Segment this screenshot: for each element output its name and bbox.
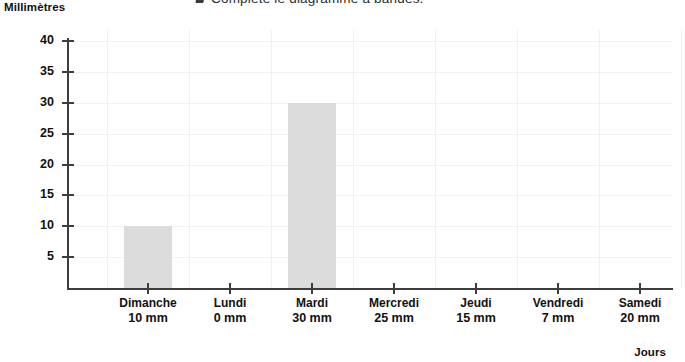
x-axis-day-name: Mardi <box>267 296 357 311</box>
y-axis-tick <box>62 40 74 42</box>
x-axis-rainfall-value: 15 mm <box>431 311 521 326</box>
x-axis-tick-label: Dimanche10 mm <box>103 296 193 326</box>
x-axis-rainfall-value: 25 mm <box>349 311 439 326</box>
y-axis-tick-label: 35 <box>20 64 54 78</box>
x-axis-tick <box>229 283 231 294</box>
bar <box>288 103 336 288</box>
x-axis-rainfall-value: 0 mm <box>185 311 275 326</box>
x-axis-rainfall-value: 30 mm <box>267 311 357 326</box>
y-axis-tick-label: 5 <box>20 249 54 263</box>
y-axis-tick <box>62 71 74 73</box>
gridline-vertical <box>681 30 682 288</box>
y-axis-tick-label: 40 <box>20 33 54 47</box>
x-axis-day-name: Jeudi <box>431 296 521 311</box>
gridline-vertical <box>271 30 272 288</box>
x-axis-day-name: Lundi <box>185 296 275 311</box>
gridline-horizontal <box>68 72 673 73</box>
x-axis-tick-label: Vendredi7 mm <box>513 296 603 326</box>
gridline-horizontal <box>68 165 673 166</box>
x-axis-tick <box>147 283 149 294</box>
gridline-vertical <box>599 30 600 288</box>
x-axis-tick <box>639 283 641 294</box>
x-axis-day-name: Mercredi <box>349 296 439 311</box>
x-axis-day-name: Dimanche <box>103 296 193 311</box>
gridline-vertical <box>107 30 108 288</box>
y-axis-tick <box>62 133 74 135</box>
x-axis-rainfall-value: 20 mm <box>595 311 685 326</box>
x-axis-day-name: Samedi <box>595 296 685 311</box>
x-axis-tick-label: Mardi30 mm <box>267 296 357 326</box>
y-axis-tick-label: 25 <box>20 126 54 140</box>
gridline-vertical <box>353 30 354 288</box>
x-axis-tick-label: Mercredi25 mm <box>349 296 439 326</box>
x-axis-rainfall-value: 10 mm <box>103 311 193 326</box>
gridline-vertical <box>435 30 436 288</box>
y-axis-tick <box>62 225 74 227</box>
x-axis-day-name: Vendredi <box>513 296 603 311</box>
y-axis-tick-label: 20 <box>20 157 54 171</box>
y-axis-tick-label: 10 <box>20 218 54 232</box>
bar <box>124 226 172 288</box>
y-axis-tick <box>62 256 74 258</box>
x-axis-rainfall-value: 7 mm <box>513 311 603 326</box>
y-axis-tick <box>62 194 74 196</box>
x-axis-tick-label: Lundi0 mm <box>185 296 275 326</box>
x-axis-tick <box>557 283 559 294</box>
x-axis-tick-label: Jeudi15 mm <box>431 296 521 326</box>
x-axis-tick <box>311 283 313 294</box>
gridline-horizontal <box>68 103 673 104</box>
y-axis-tick <box>62 164 74 166</box>
x-axis-tick <box>475 283 477 294</box>
y-axis-tick-label: 15 <box>20 187 54 201</box>
gridline-horizontal <box>68 134 673 135</box>
gridline-horizontal <box>68 41 673 42</box>
x-axis-tick <box>393 283 395 294</box>
x-axis-tick-label: Samedi20 mm <box>595 296 685 326</box>
y-axis-tick <box>62 102 74 104</box>
plot-area <box>68 30 673 288</box>
gridline-vertical <box>517 30 518 288</box>
gridline-vertical <box>189 30 190 288</box>
x-axis-line <box>67 288 673 290</box>
gridline-horizontal <box>68 195 673 196</box>
y-axis-tick-label: 30 <box>20 95 54 109</box>
